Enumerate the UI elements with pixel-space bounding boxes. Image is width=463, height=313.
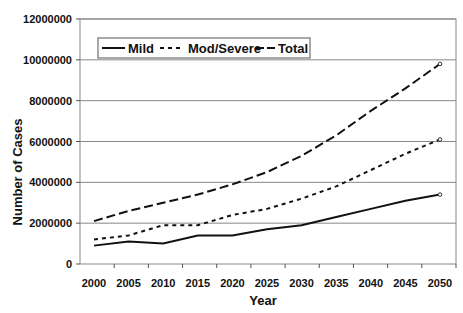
y-tick-label: 2000000	[29, 217, 72, 229]
x-tick-label: 2045	[393, 277, 417, 289]
x-tick-label: 2020	[220, 277, 244, 289]
x-tick-label: 2050	[428, 277, 452, 289]
series-lines	[94, 62, 442, 246]
y-tick-label: 12000000	[23, 13, 72, 25]
line-chart: 0200000040000006000000800000010000000120…	[0, 0, 463, 313]
legend-mod-label: Mod/Severe	[188, 41, 261, 56]
series-line-total	[94, 64, 440, 221]
y-axis-ticks: 0200000040000006000000800000010000000120…	[23, 13, 80, 270]
end-marker	[438, 193, 442, 197]
x-tick-label: 2010	[151, 277, 175, 289]
y-tick-label: 0	[66, 258, 72, 270]
x-tick-label: 2000	[82, 277, 106, 289]
series-line-mild	[94, 195, 440, 246]
legend-mild-label: Mild	[128, 41, 154, 56]
y-tick-label: 10000000	[23, 54, 72, 66]
x-tick-label: 2015	[186, 277, 210, 289]
legend: Mild Mod/Severe Total	[98, 38, 310, 58]
end-marker	[438, 62, 442, 66]
series-line-mod-severe	[94, 139, 440, 239]
x-tick-label: 2005	[116, 277, 140, 289]
y-tick-label: 6000000	[29, 136, 72, 148]
x-tick-label: 2025	[255, 277, 279, 289]
end-marker	[438, 138, 442, 142]
y-tick-label: 4000000	[29, 176, 72, 188]
x-axis-ticks: 2000200520102015202020252030203520402045…	[82, 264, 456, 289]
x-tick-label: 2040	[359, 277, 383, 289]
x-tick-label: 2035	[324, 277, 348, 289]
legend-total-label: Total	[278, 41, 308, 56]
x-axis-label: Year	[249, 293, 276, 308]
x-tick-label: 2030	[289, 277, 313, 289]
y-axis-label: Number of Cases	[10, 119, 25, 226]
y-tick-label: 8000000	[29, 95, 72, 107]
